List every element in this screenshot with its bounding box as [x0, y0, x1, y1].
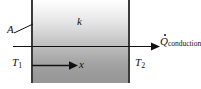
area-label: A	[7, 24, 14, 35]
heat-flow-arrow	[13, 41, 161, 52]
hot-temperature-subscript: 1	[18, 61, 22, 70]
thermal-conductivity-label: k	[77, 16, 82, 27]
heat-rate-subscript: conduction	[168, 39, 201, 48]
cold-temperature-label: T2	[135, 57, 145, 70]
cold-temperature-subscript: 2	[141, 61, 145, 70]
heat-conduction-diagram: A k T1 T2 x Qconduction	[0, 0, 201, 89]
hot-temperature-label: T1	[12, 57, 22, 70]
heat-conduction-rate-label: Qconduction	[160, 36, 201, 48]
area-leader-line	[14, 22, 34, 34]
q-dot-symbol: Q	[160, 36, 168, 47]
x-axis-label: x	[79, 59, 84, 70]
x-axis-arrow	[32, 60, 79, 71]
